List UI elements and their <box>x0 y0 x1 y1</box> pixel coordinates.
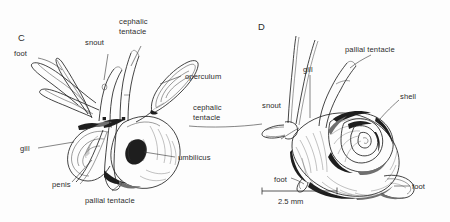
panel-d-label-foot-left: foot <box>274 175 288 184</box>
panel-d-label-foot-right: foot <box>412 182 426 191</box>
panel-c-label-foot: foot <box>14 49 28 58</box>
panel-c-letter: C <box>18 32 25 43</box>
panel-c-label-cephalic-tentacle-line1: cephalic <box>119 17 148 26</box>
panel-c-label-snout: snout <box>85 38 105 47</box>
figure-root: C foot snout cephalic tentacle operculum… <box>0 0 450 222</box>
panel-c-label-operculum: operculum <box>185 72 221 81</box>
panel-d-letter: D <box>258 21 265 32</box>
panel-c-label-pallial-tentacle: pallial tentacle <box>85 196 135 205</box>
panel-c-label-cephalic-tentacle-line2: tentacle <box>119 27 146 36</box>
panel-d-label-pallial-tentacle: pallial tentacle <box>345 45 395 54</box>
panel-d-label-cephalic-tentacle-line1: cephalic <box>193 103 222 112</box>
panel-d-label-cephalic-tentacle-line2: tentacle <box>193 113 220 122</box>
panel-d-label-shell: shell <box>400 92 416 101</box>
panel-d-label-snout: snout <box>262 101 282 110</box>
panel-c-label-gill: gill <box>20 144 30 153</box>
panel-c-label-umbilicus: umbilicus <box>178 153 211 162</box>
scale-bar-label: 2.5 mm <box>278 197 303 206</box>
anatomy-figure-svg: C foot snout cephalic tentacle operculum… <box>0 0 450 222</box>
panel-d-label-gill: gill <box>303 65 313 74</box>
panel-c-label-penis: penis <box>52 180 71 189</box>
